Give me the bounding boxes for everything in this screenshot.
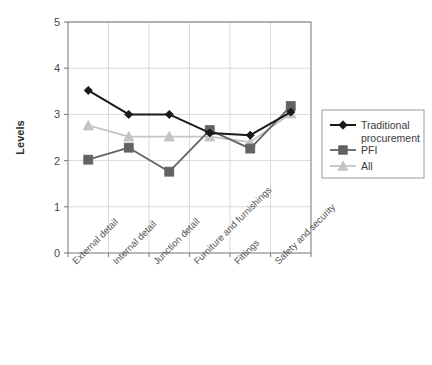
data-point-marker-triangle bbox=[83, 120, 93, 129]
legend: TraditionalprocurementPFIAll bbox=[322, 110, 424, 178]
y-axis: 012345 bbox=[54, 16, 68, 259]
y-axis-tick-label: 4 bbox=[54, 62, 60, 74]
grid-lines bbox=[68, 22, 311, 253]
data-point-marker-square bbox=[339, 146, 347, 154]
y-axis-title: Levels bbox=[14, 120, 26, 154]
data-point-marker-diamond bbox=[165, 110, 173, 118]
y-axis-tick-label: 2 bbox=[54, 155, 60, 167]
legend-label: procurement bbox=[361, 132, 420, 144]
legend-label: Traditional bbox=[361, 119, 410, 131]
y-axis-tick-label: 1 bbox=[54, 201, 60, 213]
data-point-marker-square bbox=[84, 155, 93, 164]
data-point-marker-square bbox=[165, 167, 174, 176]
x-axis-category-label: Fittings bbox=[232, 237, 262, 267]
y-axis-tick-label: 0 bbox=[54, 247, 60, 259]
data-point-marker-square bbox=[246, 144, 255, 153]
data-point-marker-diamond bbox=[246, 131, 254, 139]
legend-label: PFI bbox=[361, 144, 377, 156]
x-axis-category-label: Furniture and furnishings bbox=[191, 184, 273, 266]
line-chart: 012345LevelsExternal detailInternal deta… bbox=[0, 0, 432, 365]
y-axis-tick-label: 5 bbox=[54, 16, 60, 28]
chart-figure: 012345LevelsExternal detailInternal deta… bbox=[0, 0, 432, 365]
x-axis-category-label: Safety and security bbox=[272, 201, 337, 266]
data-point-marker-square bbox=[124, 143, 133, 152]
y-axis-tick-label: 3 bbox=[54, 108, 60, 120]
legend-label: All bbox=[361, 160, 373, 172]
